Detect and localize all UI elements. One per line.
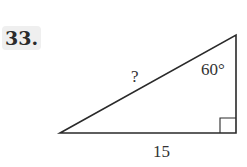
- angle-label: 60°: [201, 60, 225, 79]
- base-label: 15: [153, 142, 170, 161]
- hypotenuse-label: ?: [131, 67, 139, 86]
- triangle-figure: ? 60° 15: [0, 0, 247, 167]
- right-angle-marker: [220, 118, 236, 133]
- right-triangle: [60, 35, 236, 133]
